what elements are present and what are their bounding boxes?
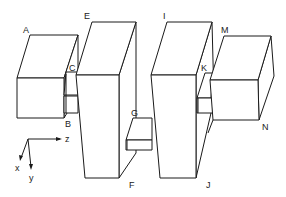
label-e: E: [84, 11, 90, 21]
axis-label-z: z: [65, 134, 70, 144]
axis-label-y: y: [29, 173, 34, 183]
diagram-svg: A B C E F G I J K M N z x y: [0, 0, 286, 197]
label-i: I: [163, 11, 166, 21]
axis-label-x: x: [15, 163, 20, 173]
label-k: K: [201, 63, 207, 73]
box-right: [208, 36, 274, 133]
z-arrow-icon: [56, 137, 62, 141]
axis-indicator: z x y: [15, 134, 70, 183]
label-g: G: [131, 108, 138, 118]
y-arrow-icon: [29, 164, 33, 170]
label-n: N: [262, 122, 269, 132]
label-b: B: [65, 119, 71, 129]
label-j: J: [206, 180, 211, 190]
label-f: F: [129, 180, 135, 190]
label-c: C: [69, 63, 76, 73]
label-a: A: [23, 25, 29, 35]
diagram-canvas: A B C E F G I J K M N z x y: [0, 0, 286, 197]
label-m: M: [221, 25, 229, 35]
column-left: [76, 22, 136, 178]
x-arrow-icon: [19, 155, 23, 161]
